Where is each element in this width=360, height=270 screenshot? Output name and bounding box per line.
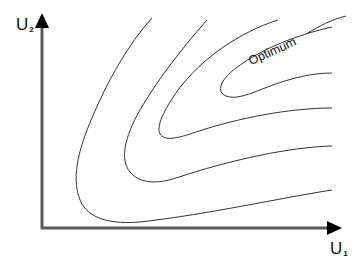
y-axis-label: U2 <box>16 16 34 33</box>
x-axis-label-subscript: 1 <box>343 249 347 258</box>
contour-diagram <box>0 0 360 270</box>
x-axis-label-text: U <box>330 239 342 258</box>
contour-2 <box>159 20 332 138</box>
x-axis-label: U1 <box>330 240 348 257</box>
y-axis-label-text: U <box>16 15 28 34</box>
y-axis-arrow-icon <box>35 13 49 28</box>
x-axis-arrow-icon <box>327 221 342 235</box>
contour-1-optimum <box>221 27 332 97</box>
contour-lines <box>76 16 346 222</box>
contour-5 <box>306 16 346 34</box>
y-axis-label-subscript: 2 <box>29 25 33 34</box>
